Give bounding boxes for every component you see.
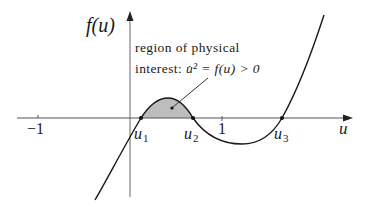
root-subscript: 2 [193, 132, 199, 144]
root-symbol: u [274, 125, 282, 142]
annotation-line-1: region of physical [135, 40, 240, 56]
y-axis-label: f(u) [86, 14, 115, 37]
root-u2-dot [191, 116, 195, 120]
annotation-leader-dot [170, 106, 173, 109]
root-label-u1: u1 [134, 125, 149, 144]
root-label-u2: u2 [184, 125, 199, 144]
root-u3-dot [280, 116, 284, 120]
tick-label-neg1: −1 [27, 120, 44, 138]
root-subscript: 1 [143, 132, 149, 144]
annotation-prefix: interest: [135, 61, 186, 76]
x-axis-label: u [339, 119, 348, 139]
annotation-line-2: interest: u̇² = f(u) > 0 [135, 61, 260, 77]
tick-label-1: 1 [218, 120, 226, 138]
annotation-math: u̇² = f(u) > 0 [186, 61, 260, 76]
root-symbol: u [134, 125, 142, 142]
root-label-u3: u3 [274, 125, 289, 144]
root-subscript: 3 [283, 132, 289, 144]
root-u1-dot [139, 116, 143, 120]
y-axis-arrow-icon [127, 11, 134, 21]
annotation-leader-line [173, 78, 208, 107]
root-symbol: u [184, 125, 192, 142]
plot-canvas [0, 0, 370, 207]
cubic-potential-diagram: f(u) region of physical interest: u̇² = … [0, 0, 370, 207]
